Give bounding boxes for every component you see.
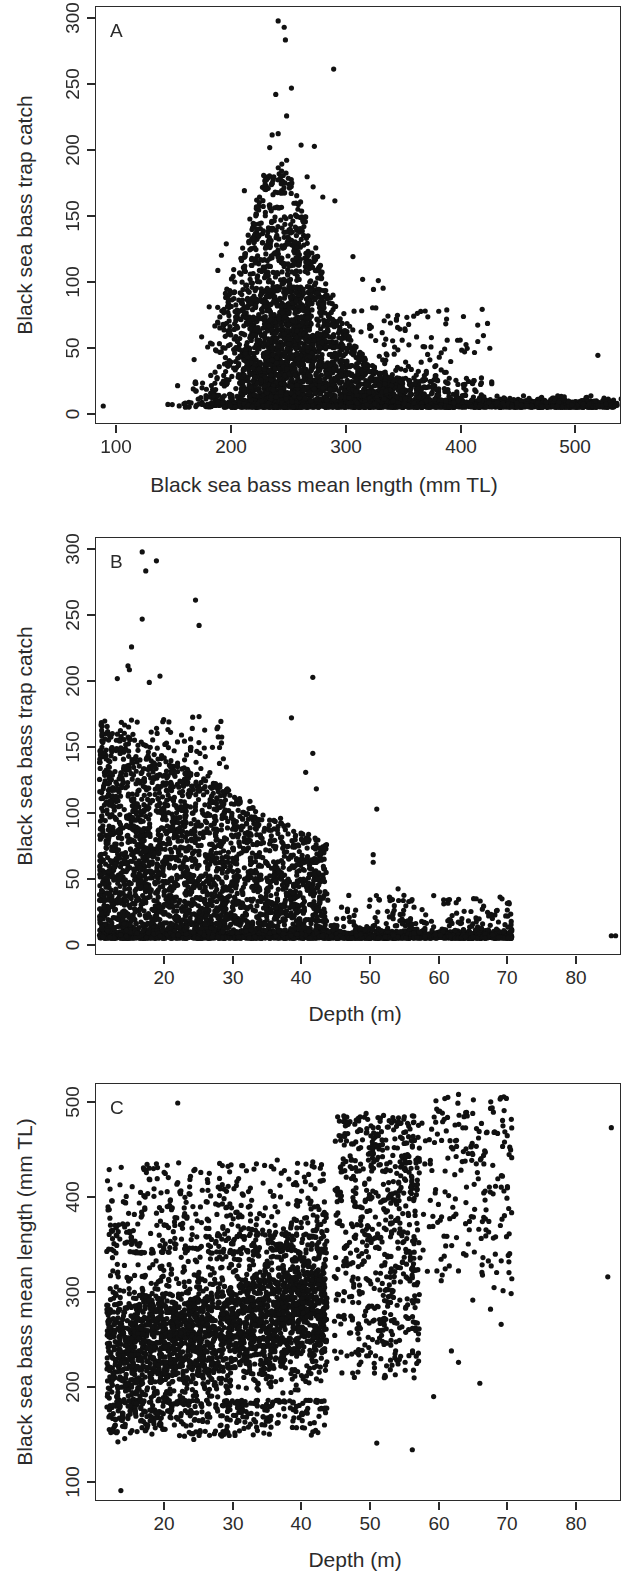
- panel-a-yaxis-title: Black sea bass trap catch: [14, 95, 35, 334]
- panel-c-xtick-label-80: 80: [565, 1514, 586, 1533]
- panel-a-ytick-100: [87, 281, 95, 283]
- panel-b-xtick-label-70: 70: [496, 968, 517, 987]
- panel-b-xtick-label-80: 80: [565, 968, 586, 987]
- panel-c-xtick-50: [369, 1502, 371, 1510]
- panel-a-ytick-label-250: 250: [63, 68, 82, 100]
- panel-b-ytick-label-200: 200: [63, 665, 82, 697]
- panel-b-ytick-150: [87, 746, 95, 748]
- panel-a: A 0 50 100 150 200 250 300 100 200 300 4…: [0, 0, 623, 520]
- panel-b-xtick-50: [369, 956, 371, 964]
- panel-c-letter: C: [110, 1098, 124, 1117]
- panel-b: B 0 50 100 150 200 250 300 20 30 40 50 6…: [0, 520, 623, 1040]
- panel-a-ytick-150: [87, 215, 95, 217]
- panel-c-xaxis-title: Depth (m): [308, 1549, 401, 1570]
- panel-a-xtick-400: [460, 425, 462, 433]
- panel-b-ytick-100: [87, 812, 95, 814]
- panel-b-ytick-250: [87, 614, 95, 616]
- panel-b-xtick-40: [300, 956, 302, 964]
- panel-b-ytick-label-100: 100: [63, 797, 82, 829]
- panel-b-plot-frame: B: [95, 537, 621, 955]
- panel-c-ytick-label-400: 400: [63, 1181, 82, 1213]
- panel-c-ytick-100: [87, 1481, 95, 1483]
- panel-c-ytick-400: [87, 1196, 95, 1198]
- panel-b-ytick-label-150: 150: [63, 731, 82, 763]
- panel-b-xtick-label-50: 50: [359, 968, 380, 987]
- panel-c-plot-frame: C: [95, 1083, 621, 1501]
- panel-a-xtick-100: [115, 425, 117, 433]
- panel-b-xtick-label-20: 20: [153, 968, 174, 987]
- panel-a-ytick-300: [87, 17, 95, 19]
- panel-c-xtick-label-30: 30: [222, 1514, 243, 1533]
- panel-a-xtick-label-500: 500: [559, 437, 591, 456]
- panel-b-xtick-label-60: 60: [428, 968, 449, 987]
- panel-c-xtick-label-60: 60: [428, 1514, 449, 1533]
- panel-c-ytick-label-200: 200: [63, 1371, 82, 1403]
- panel-c-ytick-200: [87, 1386, 95, 1388]
- scatter-figure: A 0 50 100 150 200 250 300 100 200 300 4…: [0, 0, 623, 1596]
- panel-c-ytick-label-100: 100: [63, 1466, 82, 1498]
- panel-a-xtick-label-200: 200: [215, 437, 247, 456]
- panel-c-xtick-80: [575, 1502, 577, 1510]
- panel-b-xtick-label-30: 30: [222, 968, 243, 987]
- panel-b-ytick-label-300: 300: [63, 533, 82, 565]
- panel-c-xtick-60: [438, 1502, 440, 1510]
- panel-a-ytick-label-0: 0: [63, 409, 82, 420]
- panel-a-xtick-label-400: 400: [445, 437, 477, 456]
- panel-b-ytick-200: [87, 680, 95, 682]
- panel-a-xtick-label-100: 100: [100, 437, 132, 456]
- panel-c: C 100 200 300 400 500 20 30 40 50 60 70 …: [0, 1040, 623, 1596]
- panel-c-ytick-300: [87, 1291, 95, 1293]
- panel-c-xtick-70: [506, 1502, 508, 1510]
- panel-a-ytick-label-100: 100: [63, 266, 82, 298]
- panel-b-xtick-20: [163, 956, 165, 964]
- panel-b-xtick-70: [506, 956, 508, 964]
- panel-a-ytick-label-300: 300: [63, 2, 82, 34]
- panel-c-xtick-label-40: 40: [290, 1514, 311, 1533]
- panel-a-xtick-label-300: 300: [330, 437, 362, 456]
- panel-c-xtick-20: [163, 1502, 165, 1510]
- panel-b-xtick-80: [575, 956, 577, 964]
- panel-b-xtick-label-40: 40: [290, 968, 311, 987]
- panel-b-ytick-label-250: 250: [63, 599, 82, 631]
- panel-a-letter: A: [110, 21, 123, 40]
- panel-c-xtick-label-50: 50: [359, 1514, 380, 1533]
- panel-a-ytick-50: [87, 347, 95, 349]
- panel-b-ytick-label-0: 0: [63, 940, 82, 951]
- panel-b-ytick-label-50: 50: [63, 868, 82, 889]
- panel-a-xtick-500: [574, 425, 576, 433]
- panel-c-yaxis-title: Black sea bass mean length (mm TL): [14, 1118, 35, 1465]
- panel-b-xtick-60: [438, 956, 440, 964]
- panel-b-yaxis-title: Black sea bass trap catch: [14, 626, 35, 865]
- panel-a-scatter-canvas: [96, 7, 621, 424]
- panel-a-ytick-label-200: 200: [63, 134, 82, 166]
- panel-b-xaxis-title: Depth (m): [308, 1003, 401, 1024]
- panel-c-xtick-label-20: 20: [153, 1514, 174, 1533]
- panel-c-ytick-label-500: 500: [63, 1086, 82, 1118]
- panel-a-plot-frame: A: [95, 6, 621, 424]
- panel-b-ytick-50: [87, 878, 95, 880]
- panel-b-ytick-300: [87, 548, 95, 550]
- panel-c-scatter-canvas: [96, 1084, 621, 1501]
- panel-b-ytick-0: [87, 944, 95, 946]
- panel-a-xtick-300: [345, 425, 347, 433]
- panel-b-scatter-canvas: [96, 538, 621, 955]
- panel-c-xtick-30: [232, 1502, 234, 1510]
- panel-c-xtick-label-70: 70: [496, 1514, 517, 1533]
- panel-c-xtick-40: [300, 1502, 302, 1510]
- panel-a-xaxis-title: Black sea bass mean length (mm TL): [150, 474, 497, 495]
- panel-a-ytick-label-150: 150: [63, 200, 82, 232]
- panel-a-ytick-label-50: 50: [63, 337, 82, 358]
- panel-a-ytick-0: [87, 413, 95, 415]
- panel-a-ytick-200: [87, 149, 95, 151]
- panel-b-xtick-30: [232, 956, 234, 964]
- panel-a-ytick-250: [87, 83, 95, 85]
- panel-b-letter: B: [110, 552, 123, 571]
- panel-c-ytick-500: [87, 1101, 95, 1103]
- panel-a-xtick-200: [230, 425, 232, 433]
- panel-c-ytick-label-300: 300: [63, 1276, 82, 1308]
